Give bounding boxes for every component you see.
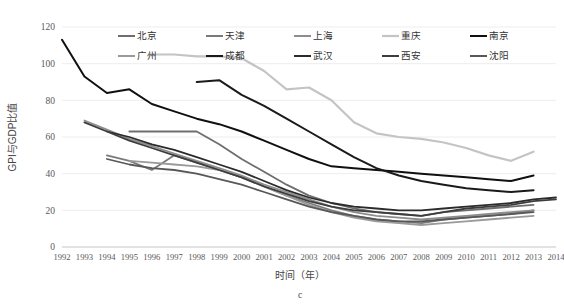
legend-label: 上海 [313,30,333,41]
x-tick-label: 1993 [76,252,93,262]
x-tick-label: 2001 [255,252,272,262]
y-tick-label: 40 [46,169,56,179]
chart-figure: 020406080100120 199219931994199519961997… [0,0,564,306]
x-tick-label: 2012 [502,252,519,262]
legend-item[interactable]: 武汉 [294,50,333,61]
x-tick-label: 1995 [121,252,138,262]
panel-label: c [298,290,302,300]
series-line [62,40,534,181]
x-tick-label: 2006 [368,252,386,262]
y-tick-label: 20 [46,206,56,216]
legend-label: 重庆 [401,30,421,41]
x-tick-label: 2005 [345,252,362,262]
legend-label: 西安 [401,50,421,61]
x-tick-label: 1998 [188,252,205,262]
y-axis-title: GPI与GDP比值 [6,103,18,172]
legend-label: 南京 [489,30,509,41]
y-tick-label: 60 [46,132,56,142]
series-line [152,55,534,161]
x-tick-label: 2000 [233,252,250,262]
y-tick-label: 0 [50,242,55,252]
legend-item[interactable]: 北京 [118,30,157,41]
legend-item[interactable]: 天津 [206,30,245,41]
legend-label: 成都 [225,50,245,61]
x-tick-label: 2011 [480,252,497,262]
x-tick-label: 1994 [98,252,116,262]
x-tick-label: 2014 [547,252,564,262]
x-tick-label: 2003 [300,252,317,262]
x-tick-label: 2013 [525,252,542,262]
chart-legend: 北京天津上海重庆南京广州成都武汉西安沈阳 [118,30,509,61]
legend-item[interactable]: 成都 [206,50,245,61]
x-tick-label: 2004 [323,252,341,262]
x-tick-label: 2002 [278,252,295,262]
legend-item[interactable]: 重庆 [382,30,421,41]
x-tick-label: 1997 [166,252,184,262]
legend-label: 广州 [137,50,157,61]
legend-item[interactable]: 西安 [382,50,421,61]
legend-item[interactable]: 广州 [118,50,157,61]
legend-item[interactable]: 南京 [470,30,509,41]
x-tick-label: 1992 [53,252,70,262]
y-tick-label: 80 [46,96,56,106]
x-tick-label: 2010 [458,252,475,262]
legend-item[interactable]: 上海 [294,30,333,41]
x-tick-label: 1999 [211,252,228,262]
x-tick-label: 1996 [143,252,161,262]
x-axis-title: 时间（年） [275,269,325,281]
x-axis-ticks: 1992199319941995199619971998199920002001… [53,252,564,262]
y-tick-label: 120 [41,22,56,32]
line-chart: 020406080100120 199219931994199519961997… [0,0,564,306]
x-tick-label: 2008 [413,252,430,262]
x-tick-label: 2007 [390,252,408,262]
data-series [62,40,556,225]
legend-label: 北京 [137,30,157,41]
legend-label: 天津 [225,30,245,41]
series-line [197,80,534,192]
x-tick-label: 2009 [435,252,452,262]
legend-item[interactable]: 沈阳 [470,50,509,61]
y-axis-ticks: 020406080100120 [41,22,56,252]
legend-label: 沈阳 [489,50,509,61]
y-tick-label: 100 [41,59,56,69]
series-line [107,159,534,221]
legend-label: 武汉 [313,50,333,61]
